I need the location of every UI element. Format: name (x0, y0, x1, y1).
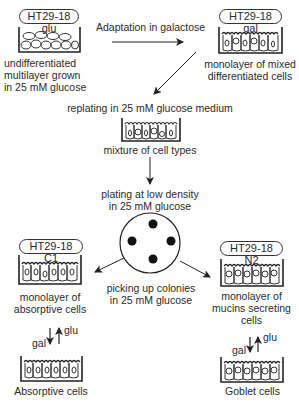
caption-mixture: mixture of cell types (90, 144, 210, 156)
label-ht29-glu: HT29-18 glu (19, 9, 79, 24)
pick-c1-arrow (95, 258, 124, 272)
caption-line: in 25 mM glucose (80, 200, 220, 212)
c1-gal-label: gal (30, 337, 48, 349)
final-absorptive: Absorptive cells (5, 385, 97, 397)
edge-picking: picking up colonies in 25 mM glucose (86, 282, 216, 306)
step-replating: replating in 25 mM glucose medium (60, 102, 240, 114)
caption-line: monolayer of (4, 291, 96, 303)
caption-gal: monolayer of mixed differentiated cells (203, 58, 297, 82)
n2-gal-label: gal (230, 344, 248, 356)
caption-line: absorptive cells (4, 303, 96, 315)
caption-line: cells (204, 314, 299, 326)
dish-absorptive-icon (21, 356, 82, 381)
colony-dot (149, 255, 158, 264)
caption-line: monolayer of (204, 290, 299, 302)
caption-c1: monolayer of absorptive cells (4, 291, 96, 315)
petri-dish-icon (120, 213, 180, 273)
dish-mixture-icon (122, 118, 180, 141)
step-plating: plating at low density in 25 mM glucose (80, 188, 220, 212)
caption-line: multilayer grown (4, 69, 96, 81)
n2-glu-label: glu (261, 331, 279, 343)
caption-line: in 25 mM glucose (86, 294, 216, 306)
caption-n2: monolayer of mucins secreting cells (204, 290, 299, 326)
label-ht29-gal: HT29-18 gal (219, 9, 282, 24)
label-ht29-n2: HT29-18 N2 (220, 241, 283, 256)
caption-line: mucins secreting (204, 302, 299, 314)
caption-line: undifferentiated (4, 57, 96, 69)
caption-line: in 25 mM glucose (4, 81, 96, 93)
colony-dot (167, 237, 176, 246)
colony-dot (149, 220, 158, 229)
edge-adaptation: Adaptation in galactose (96, 21, 200, 33)
caption-line: differentiated cells (203, 70, 297, 82)
label-ht29-c1: HT29-18 C1 (19, 239, 83, 254)
replating-arrow (154, 52, 196, 94)
caption-glu: undifferentiated multilayer grown in 25 … (4, 57, 96, 93)
caption-line: plating at low density (80, 188, 220, 200)
dish-goblet-icon (221, 357, 283, 382)
colony-dot (128, 237, 137, 246)
final-goblet: Goblet cells (205, 385, 299, 397)
c1-glu-label: glu (62, 324, 80, 336)
pick-n2-arrow (180, 261, 210, 277)
caption-line: monolayer of mixed (203, 58, 297, 70)
caption-line: picking up colonies (86, 282, 216, 294)
